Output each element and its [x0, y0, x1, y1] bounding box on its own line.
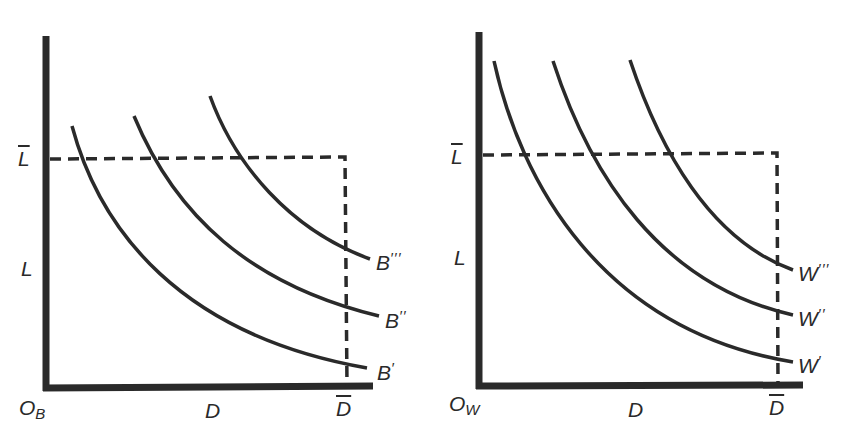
right-l-label: L: [454, 247, 466, 268]
left-origin-label: OB: [19, 397, 45, 421]
left-x-axis: [43, 386, 373, 388]
right-l-bar-label: L: [451, 146, 463, 167]
right-d-label: D: [628, 399, 643, 420]
curve-w-prime: [494, 61, 793, 362]
label-w-prime: W′: [798, 353, 822, 376]
left-panel: [43, 36, 379, 391]
diagram-canvas: [0, 0, 853, 447]
right-origin-label: OW: [449, 393, 480, 417]
left-d-bar-label: D: [336, 398, 351, 419]
label-w-double-prime: W′′: [798, 306, 825, 329]
left-l-bar-label: L: [18, 148, 30, 169]
curve-b-prime: [72, 126, 367, 368]
right-d-bar-label: D: [769, 397, 784, 418]
right-x-axis: [476, 385, 803, 386]
curve-w-double-prime: [553, 61, 793, 315]
left-d-label: D: [205, 400, 220, 421]
label-b-double-prime: B′′: [385, 308, 407, 331]
left-l-label: L: [21, 258, 33, 279]
label-w-triple-prime: W′′′: [798, 261, 829, 284]
right-panel: [476, 32, 803, 389]
label-b-triple-prime: B′′′: [376, 250, 401, 273]
label-b-prime: B′: [377, 360, 395, 383]
curve-b-double-prime: [134, 116, 379, 316]
